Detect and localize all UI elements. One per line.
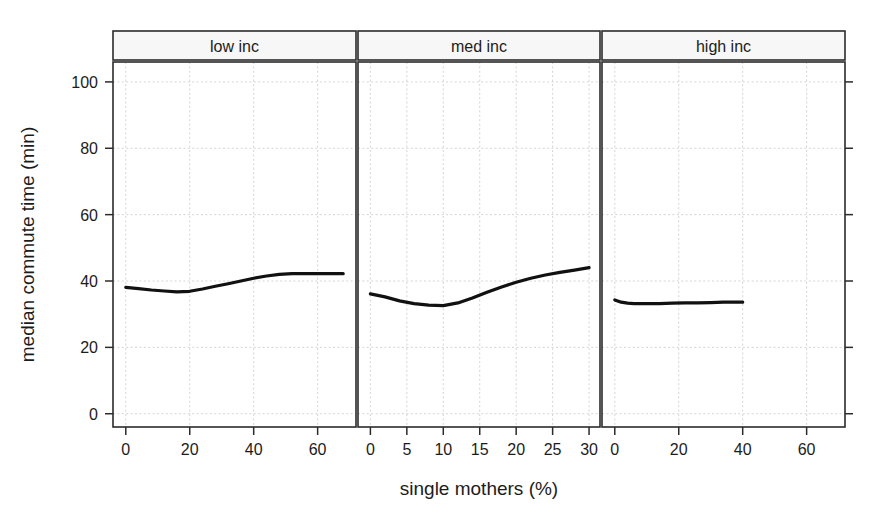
panel-frame <box>113 62 356 427</box>
x-tick-label: 5 <box>402 441 411 458</box>
gridlines <box>602 62 845 427</box>
x-tick-label: 0 <box>366 441 375 458</box>
x-tick-label: 30 <box>580 441 598 458</box>
x-tick-label: 0 <box>121 441 130 458</box>
gridlines <box>358 62 600 427</box>
scatter-plot-figure: low inc0204060med inc051015202530high in… <box>0 0 892 525</box>
chart-canvas: low inc0204060med inc051015202530high in… <box>0 0 892 525</box>
panel-strip-label: high inc <box>696 38 751 55</box>
x-tick-label: 15 <box>471 441 489 458</box>
x-tick-label: 20 <box>670 441 688 458</box>
x-tick-label: 20 <box>181 441 199 458</box>
trend-line <box>126 274 343 292</box>
x-tick-label: 60 <box>309 441 327 458</box>
y-tick-label: 100 <box>71 74 98 91</box>
x-tick-label: 40 <box>245 441 263 458</box>
x-axis-title: single mothers (%) <box>400 478 558 499</box>
x-tick-label: 40 <box>734 441 752 458</box>
panel-strip-label: med inc <box>451 38 507 55</box>
x-tick-label: 10 <box>434 441 452 458</box>
y-tick-label: 0 <box>89 406 98 423</box>
y-tick-label: 40 <box>80 273 98 290</box>
panel-med-inc: med inc051015202530 <box>358 1 600 458</box>
x-tick-label: 25 <box>544 441 562 458</box>
y-tick-label: 20 <box>80 339 98 356</box>
panel-frame <box>602 62 845 427</box>
panel-high-inc: high inc0204060 <box>602 1 845 458</box>
y-axis-title: median commute time (min) <box>17 127 38 362</box>
x-tick-label: 0 <box>610 441 619 458</box>
x-tick-label: 20 <box>507 441 525 458</box>
y-axis: 020406080100 <box>71 74 853 423</box>
gridlines <box>113 62 356 427</box>
x-tick-label: 60 <box>798 441 816 458</box>
panel-low-inc: low inc0204060 <box>113 1 356 458</box>
panel-strip-label: low inc <box>210 38 259 55</box>
y-tick-label: 80 <box>80 140 98 157</box>
y-tick-label: 60 <box>80 207 98 224</box>
panel-frame <box>358 62 600 427</box>
